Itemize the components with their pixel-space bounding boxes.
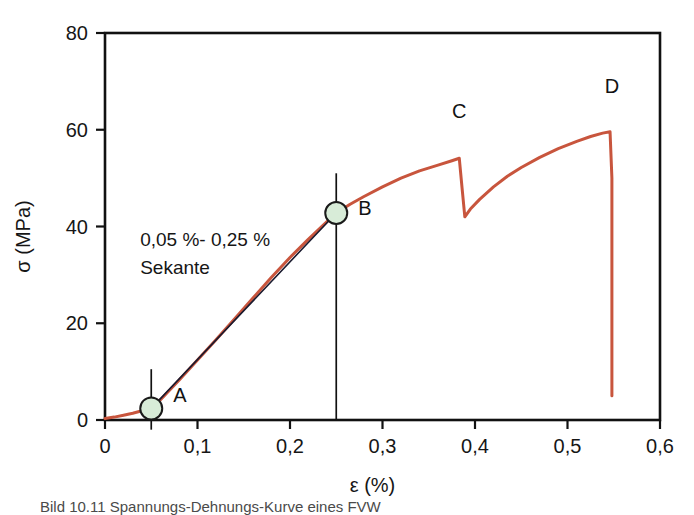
figure-caption: Bild 10.11 Spannungs-Dehnungs-Kurve eine… — [40, 498, 382, 515]
marker-label-a: A — [173, 384, 187, 406]
plot-frame — [105, 33, 660, 420]
x-axis-title: ε (%) — [350, 474, 396, 496]
y-tick-label: 40 — [66, 216, 88, 238]
x-tick-label: 0,6 — [646, 435, 674, 457]
y-tick-label: 20 — [66, 312, 88, 334]
x-tick-label: 0,1 — [184, 435, 212, 457]
secant-note-line1: 0,05 %- 0,25 % — [140, 229, 270, 250]
x-tick-label: 0,3 — [369, 435, 397, 457]
secant-note-line2: Sekante — [140, 257, 210, 278]
y-tick-label: 80 — [66, 22, 88, 44]
x-tick-label: 0 — [99, 435, 110, 457]
marker-a — [140, 397, 162, 419]
x-tick-label: 0,5 — [554, 435, 582, 457]
marker-label-b: B — [358, 197, 371, 219]
y-axis-title: σ (MPa) — [12, 200, 34, 272]
y-tick-label: 60 — [66, 119, 88, 141]
point-label-c: C — [452, 100, 466, 122]
x-tick-label: 0,4 — [461, 435, 489, 457]
point-label-d: D — [605, 75, 619, 97]
stress-strain-figure: 00,10,20,30,40,50,6020406080ε (%)σ (MPa)… — [0, 0, 694, 515]
y-tick-label: 0 — [77, 409, 88, 431]
stress-strain-chart: 00,10,20,30,40,50,6020406080ε (%)σ (MPa)… — [0, 0, 694, 515]
marker-b — [325, 202, 347, 224]
x-tick-label: 0,2 — [276, 435, 304, 457]
